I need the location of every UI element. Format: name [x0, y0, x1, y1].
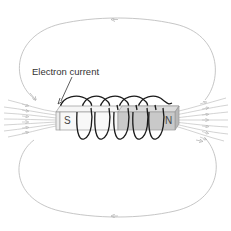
north-pole-label: N [165, 115, 172, 126]
electromagnet-diagram [0, 0, 231, 231]
field-lines-right [175, 98, 228, 141]
field-lines-left [4, 100, 56, 137]
south-pole-label: S [64, 115, 71, 126]
electron-current-label: Electron current [32, 66, 99, 77]
field-line-bottom-outer [19, 138, 216, 217]
field-line-top-outer [19, 18, 215, 100]
